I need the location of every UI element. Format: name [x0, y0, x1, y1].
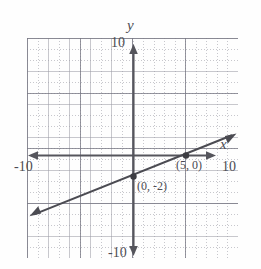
y-axis-label: y — [127, 18, 134, 33]
x-axis-min-tick-label: -10 — [14, 160, 33, 174]
point-label-x-intercept: (5, 0) — [176, 159, 202, 171]
y-axis — [129, 44, 138, 256]
graph-figure: y x 10 -10 -10 10 (0, -2) (5, 0) — [0, 0, 261, 269]
axes-and-line-overlay — [0, 0, 261, 269]
point-marker-y-intercept — [130, 173, 136, 179]
y-axis-min-tick-label: -10 — [108, 246, 127, 260]
point-label-y-intercept: (0, -2) — [137, 180, 167, 192]
y-axis-max-tick-label: 10 — [111, 36, 125, 50]
x-axis-label: x — [220, 137, 227, 152]
x-axis-max-tick-label: 10 — [222, 160, 236, 174]
